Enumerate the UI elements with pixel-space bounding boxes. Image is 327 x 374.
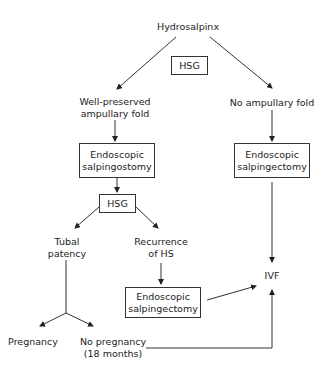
node-hsg-mid-label: HSG <box>107 198 128 210</box>
salpingectomy-right-line1: Endoscopic <box>245 149 299 161</box>
node-no-ampullary-fold: No ampullary fold <box>230 97 315 109</box>
recurrence-line1: Recurrence <box>134 236 188 248</box>
no-pregnancy-line1: No pregnancy <box>80 336 146 348</box>
node-hsg-top: HSG <box>171 56 208 75</box>
salpingectomy-mid-line2: salpingectomy <box>128 303 198 315</box>
node-no-pregnancy: No pregnancy (18 months) <box>80 336 146 359</box>
node-ivf: IVF <box>265 270 280 282</box>
node-hsg-mid: HSG <box>99 194 136 213</box>
node-well-preserved-fold: Well-preserved ampullary fold <box>79 96 150 119</box>
node-endoscopic-salpingostomy: Endoscopic salpingostomy <box>79 143 155 178</box>
node-endoscopic-salpingectomy-mid: Endoscopic salpingectomy <box>125 287 201 318</box>
node-pregnancy: Pregnancy <box>8 336 58 348</box>
tubal-patency-line2: patency <box>48 248 86 260</box>
node-tubal-patency: Tubal patency <box>48 236 86 259</box>
node-recurrence-of-hs: Recurrence of HS <box>134 236 188 259</box>
salpingostomy-line1: Endoscopic <box>90 149 144 161</box>
node-endoscopic-salpingectomy-right: Endoscopic salpingectomy <box>234 143 310 178</box>
tubal-patency-line1: Tubal <box>48 236 86 248</box>
salpingectomy-mid-line1: Endoscopic <box>136 291 190 303</box>
salpingostomy-line2: salpingostomy <box>82 161 151 173</box>
no-pregnancy-line2: (18 months) <box>80 348 146 360</box>
node-hsg-top-label: HSG <box>179 60 200 72</box>
node-well-preserved-line2: ampullary fold <box>79 108 150 120</box>
salpingectomy-right-line2: salpingectomy <box>237 161 307 173</box>
node-well-preserved-line1: Well-preserved <box>79 96 150 108</box>
recurrence-line2: of HS <box>134 248 188 260</box>
node-hydrosalpinx: Hydrosalpinx <box>157 21 219 33</box>
